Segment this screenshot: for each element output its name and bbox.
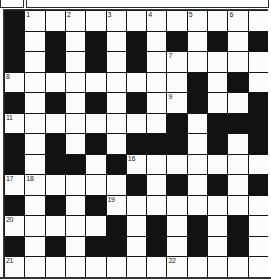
crossword-cell[interactable] [188, 52, 207, 72]
crossword-cell[interactable] [127, 216, 146, 236]
crossword-cell[interactable] [46, 175, 65, 195]
crossword-cell[interactable] [228, 32, 247, 52]
crossword-cell[interactable]: 3 [107, 11, 126, 31]
crossword-cell[interactable] [66, 216, 85, 236]
crossword-cell[interactable]: 9 [167, 93, 186, 113]
crossword-cell[interactable] [147, 155, 166, 175]
crossword-cell[interactable] [107, 93, 126, 113]
crossword-cell[interactable] [25, 32, 44, 52]
crossword-cell[interactable] [66, 175, 85, 195]
crossword-cell[interactable] [228, 257, 247, 277]
crossword-cell[interactable] [66, 73, 85, 93]
crossword-cell[interactable]: 22 [167, 257, 186, 277]
crossword-cell[interactable] [25, 155, 44, 175]
crossword-cell[interactable] [66, 196, 85, 216]
crossword-cell[interactable] [228, 134, 247, 154]
crossword-cell[interactable]: 20 [5, 216, 24, 236]
crossword-cell[interactable] [208, 237, 227, 257]
crossword-cell[interactable] [127, 196, 146, 216]
crossword-cell[interactable] [127, 73, 146, 93]
crossword-cell[interactable] [66, 257, 85, 277]
header-left-box[interactable] [0, 0, 24, 8]
crossword-cell[interactable] [46, 257, 65, 277]
crossword-cell[interactable] [147, 196, 166, 216]
crossword-cell[interactable]: 1 [25, 11, 44, 31]
crossword-cell[interactable] [66, 134, 85, 154]
crossword-cell[interactable] [147, 52, 166, 72]
crossword-cell[interactable] [147, 257, 166, 277]
crossword-cell[interactable] [107, 175, 126, 195]
crossword-cell[interactable]: 11 [5, 114, 24, 134]
crossword-cell[interactable] [249, 73, 268, 93]
crossword-cell[interactable] [107, 134, 126, 154]
crossword-cell[interactable] [147, 73, 166, 93]
crossword-cell[interactable] [66, 237, 85, 257]
crossword-cell[interactable] [86, 155, 105, 175]
crossword-grid[interactable]: 1234567891116171819202122 [5, 11, 268, 277]
crossword-cell[interactable] [228, 93, 247, 113]
crossword-cell[interactable] [66, 93, 85, 113]
crossword-cell[interactable] [66, 114, 85, 134]
crossword-cell[interactable] [86, 114, 105, 134]
crossword-cell[interactable] [46, 216, 65, 236]
crossword-cell[interactable] [249, 155, 268, 175]
crossword-cell[interactable] [167, 155, 186, 175]
crossword-cell[interactable] [188, 196, 207, 216]
crossword-cell[interactable] [147, 32, 166, 52]
crossword-cell[interactable] [25, 216, 44, 236]
crossword-cell[interactable] [188, 257, 207, 277]
crossword-cell[interactable] [167, 216, 186, 236]
crossword-cell[interactable] [46, 114, 65, 134]
crossword-cell[interactable] [66, 52, 85, 72]
crossword-cell[interactable] [147, 114, 166, 134]
crossword-cell[interactable] [147, 175, 166, 195]
crossword-cell[interactable] [86, 11, 105, 31]
crossword-cell[interactable] [208, 52, 227, 72]
crossword-cell[interactable] [249, 52, 268, 72]
crossword-cell[interactable] [107, 257, 126, 277]
crossword-cell[interactable] [228, 52, 247, 72]
crossword-cell[interactable] [167, 237, 186, 257]
crossword-cell[interactable] [208, 216, 227, 236]
crossword-cell[interactable] [127, 257, 146, 277]
crossword-cell[interactable] [86, 257, 105, 277]
crossword-cell[interactable] [86, 175, 105, 195]
crossword-cell[interactable] [167, 73, 186, 93]
crossword-cell[interactable] [127, 237, 146, 257]
crossword-cell[interactable] [25, 134, 44, 154]
crossword-cell[interactable] [107, 114, 126, 134]
crossword-cell[interactable] [107, 52, 126, 72]
crossword-cell[interactable] [228, 175, 247, 195]
crossword-cell[interactable] [25, 73, 44, 93]
crossword-cell[interactable] [127, 114, 146, 134]
crossword-cell[interactable] [249, 196, 268, 216]
crossword-cell[interactable]: 8 [5, 73, 24, 93]
crossword-cell[interactable] [86, 73, 105, 93]
crossword-cell[interactable] [66, 32, 85, 52]
crossword-cell[interactable]: 6 [228, 11, 247, 31]
crossword-cell[interactable] [167, 196, 186, 216]
crossword-cell[interactable] [86, 216, 105, 236]
crossword-cell[interactable] [25, 237, 44, 257]
header-right-box[interactable] [26, 0, 269, 8]
crossword-cell[interactable] [127, 11, 146, 31]
crossword-cell[interactable]: 4 [147, 11, 166, 31]
crossword-cell[interactable] [188, 32, 207, 52]
crossword-cell[interactable]: 17 [5, 175, 24, 195]
crossword-cell[interactable] [249, 257, 268, 277]
crossword-cell[interactable]: 7 [167, 52, 186, 72]
crossword-cell[interactable]: 19 [107, 196, 126, 216]
crossword-cell[interactable] [208, 196, 227, 216]
crossword-cell[interactable] [188, 114, 207, 134]
crossword-cell[interactable] [208, 11, 227, 31]
crossword-cell[interactable] [249, 11, 268, 31]
crossword-cell[interactable] [25, 93, 44, 113]
crossword-cell[interactable] [208, 155, 227, 175]
crossword-cell[interactable] [25, 257, 44, 277]
crossword-cell[interactable] [25, 114, 44, 134]
crossword-cell[interactable] [167, 11, 186, 31]
crossword-cell[interactable] [147, 93, 166, 113]
crossword-cell[interactable]: 2 [66, 11, 85, 31]
crossword-cell[interactable]: 21 [5, 257, 24, 277]
crossword-cell[interactable] [228, 155, 247, 175]
